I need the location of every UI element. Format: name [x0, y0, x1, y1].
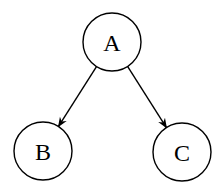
- edge-a-to-c: [128, 66, 167, 127]
- tree-diagram: A B C: [0, 0, 221, 195]
- node-a-label: A: [103, 30, 121, 56]
- node-c-label: C: [174, 140, 190, 166]
- node-a: A: [83, 13, 141, 71]
- node-c: C: [153, 123, 211, 181]
- node-b: B: [14, 122, 72, 180]
- edge-a-to-b: [59, 67, 97, 127]
- node-b-label: B: [35, 139, 51, 165]
